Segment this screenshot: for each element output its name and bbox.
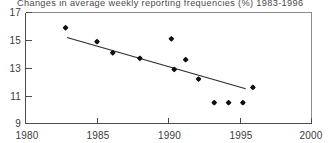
- data-point: [196, 76, 202, 82]
- x-tick-labels: 1980 1985 1990 1995 2000: [15, 130, 322, 141]
- y-tick-marks: [26, 13, 32, 124]
- x-tick-label-1985: 1985: [86, 130, 109, 141]
- data-point: [183, 57, 189, 63]
- y-tick-label-11: 11: [10, 91, 21, 102]
- data-point: [137, 55, 143, 61]
- x-tick-label-1995: 1995: [229, 130, 252, 141]
- data-point: [63, 25, 69, 31]
- x-tick-marks: [26, 118, 312, 124]
- x-tick-label-1990: 1990: [158, 130, 181, 141]
- data-point: [240, 100, 246, 106]
- trend-line: [67, 37, 246, 88]
- y-tick-labels: 17 15 13 11 9: [9, 7, 21, 129]
- data-point: [250, 85, 256, 91]
- data-point: [211, 100, 217, 106]
- data-point-group: [63, 25, 256, 106]
- y-tick-label-17: 17: [9, 7, 21, 18]
- x-tick-label-2000: 2000: [299, 130, 322, 141]
- y-tick-label-9: 9: [15, 118, 21, 129]
- plot-frame: [26, 13, 312, 124]
- data-point: [168, 36, 174, 42]
- scatter-plot: 17 15 13 11 9 1980 1985 1990 1995 2000: [0, 0, 329, 143]
- chart-figure: Changes in average weekly reporting freq…: [0, 0, 329, 143]
- data-point: [94, 39, 100, 45]
- y-tick-label-13: 13: [9, 63, 21, 74]
- data-point: [226, 100, 232, 106]
- y-tick-label-15: 15: [9, 35, 21, 46]
- x-tick-label-1980: 1980: [15, 130, 38, 141]
